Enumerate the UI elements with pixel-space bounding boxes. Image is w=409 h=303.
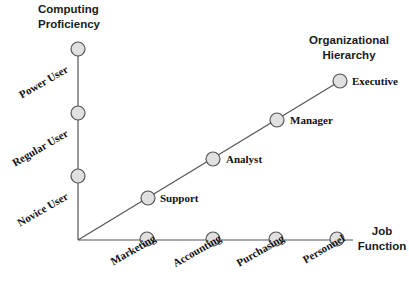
diagram-canvas: Computing Proficiency Organizational Hie… (0, 0, 409, 303)
axis-title-organizational-hierarchy: Organizational Hierarchy (293, 33, 405, 62)
node-manager[interactable] (270, 113, 284, 127)
node-novice-user[interactable] (71, 169, 85, 183)
node-label-analyst: Analyst (226, 153, 262, 165)
node-label-manager: Manager (290, 114, 333, 126)
node-support[interactable] (141, 191, 155, 205)
node-regular-user[interactable] (71, 106, 85, 120)
axis-title-job-function: Job Function (357, 224, 407, 253)
node-analyst[interactable] (206, 152, 220, 166)
node-label-executive: Executive (352, 75, 398, 87)
node-label-support: Support (160, 192, 199, 204)
node-executive[interactable] (333, 74, 347, 88)
axis-title-computing-proficiency: Computing Proficiency (38, 2, 100, 31)
node-power-user[interactable] (71, 42, 85, 56)
